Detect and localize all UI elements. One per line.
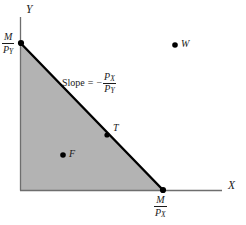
x-intercept-numerator: M bbox=[154, 195, 167, 206]
slope-annotation: Slope = − PX PY bbox=[62, 72, 116, 95]
slope-annotation-denominator-subscript: Y bbox=[110, 86, 114, 95]
slope-annotation-denominator: PY bbox=[103, 84, 116, 95]
y-intercept-dot bbox=[18, 40, 24, 46]
y-intercept-denominator: PY bbox=[2, 44, 14, 56]
budget-constraint-figure: Y X M PY M PX Slope = − PX PY F T W bbox=[0, 0, 246, 225]
x-intercept-denominator-subscript: X bbox=[161, 210, 166, 219]
slope-annotation-fraction: PX PY bbox=[103, 72, 116, 95]
point-label-F: F bbox=[69, 149, 75, 159]
point-label-W: W bbox=[181, 39, 189, 49]
slope-annotation-word: Slope bbox=[62, 78, 85, 88]
y-intercept-numerator: M bbox=[2, 32, 14, 43]
x-axis-label: X bbox=[228, 180, 235, 192]
slope-annotation-minus: − bbox=[96, 78, 103, 88]
plot-canvas bbox=[0, 0, 246, 225]
slope-annotation-numerator-subscript: X bbox=[110, 74, 115, 83]
x-intercept-label: M PX bbox=[154, 195, 167, 219]
y-intercept-label: M PY bbox=[2, 32, 14, 56]
x-intercept-dot bbox=[160, 187, 166, 193]
slope-annotation-equals: = bbox=[85, 78, 97, 88]
point-dot-W bbox=[172, 42, 178, 48]
x-intercept-denominator: PX bbox=[154, 207, 167, 219]
y-axis-label: Y bbox=[26, 4, 32, 16]
point-dot-T bbox=[104, 132, 109, 137]
slope-annotation-numerator: PX bbox=[103, 72, 116, 83]
point-dot-F bbox=[60, 152, 66, 158]
y-intercept-denominator-subscript: Y bbox=[9, 47, 13, 56]
point-label-T: T bbox=[113, 123, 119, 133]
